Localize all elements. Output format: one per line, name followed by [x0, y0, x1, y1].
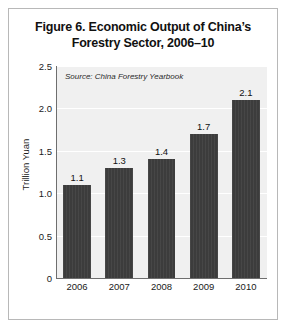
- plot-area: Source: China Forestry Yearbook 1.11.31.…: [56, 66, 267, 278]
- y-axis-tick-label: 0: [18, 273, 52, 284]
- x-axis-tick-label: 2008: [151, 281, 172, 292]
- bar-value-label: 1.3: [113, 155, 126, 166]
- x-axis-tick-label: 2006: [67, 281, 88, 292]
- bar-slot: 1.3: [105, 66, 133, 278]
- bar[interactable]: [190, 134, 218, 278]
- y-axis-tick-label: 0.5: [18, 230, 52, 241]
- bar-series: 1.11.31.41.72.1: [56, 66, 267, 278]
- x-axis-tick-label: 2007: [109, 281, 130, 292]
- y-axis-tick-label: 1.0: [18, 188, 52, 199]
- y-axis-tick-label: 2.5: [18, 61, 52, 72]
- bar-slot: 1.7: [190, 66, 218, 278]
- bar[interactable]: [105, 168, 133, 278]
- bar[interactable]: [63, 185, 91, 278]
- x-axis-tick-label: 2009: [193, 281, 214, 292]
- x-axis-tick-label: 2010: [235, 281, 256, 292]
- bar-slot: 2.1: [232, 66, 260, 278]
- y-axis-tick-label: 1.5: [18, 145, 52, 156]
- x-axis-line: [56, 278, 267, 279]
- bar-value-label: 1.7: [197, 121, 210, 132]
- bar[interactable]: [148, 159, 176, 278]
- bar-value-label: 1.1: [70, 172, 83, 183]
- y-axis-tick-label: 2.0: [18, 103, 52, 114]
- y-axis-tick-labels: 00.51.01.52.02.5: [14, 66, 52, 278]
- bar-slot: 1.4: [148, 66, 176, 278]
- y-axis-line: [56, 66, 57, 279]
- bar[interactable]: [232, 100, 260, 278]
- bar-chart: Trillion Yuan 00.51.01.52.02.5 Source: C…: [9, 9, 279, 321]
- bar-value-label: 2.1: [239, 87, 252, 98]
- bar-slot: 1.1: [63, 66, 91, 278]
- bar-value-label: 1.4: [155, 146, 168, 157]
- figure-panel: Figure 6. Economic Output of China’s For…: [8, 8, 278, 320]
- x-axis-tick-labels: 20062007200820092010: [56, 281, 267, 297]
